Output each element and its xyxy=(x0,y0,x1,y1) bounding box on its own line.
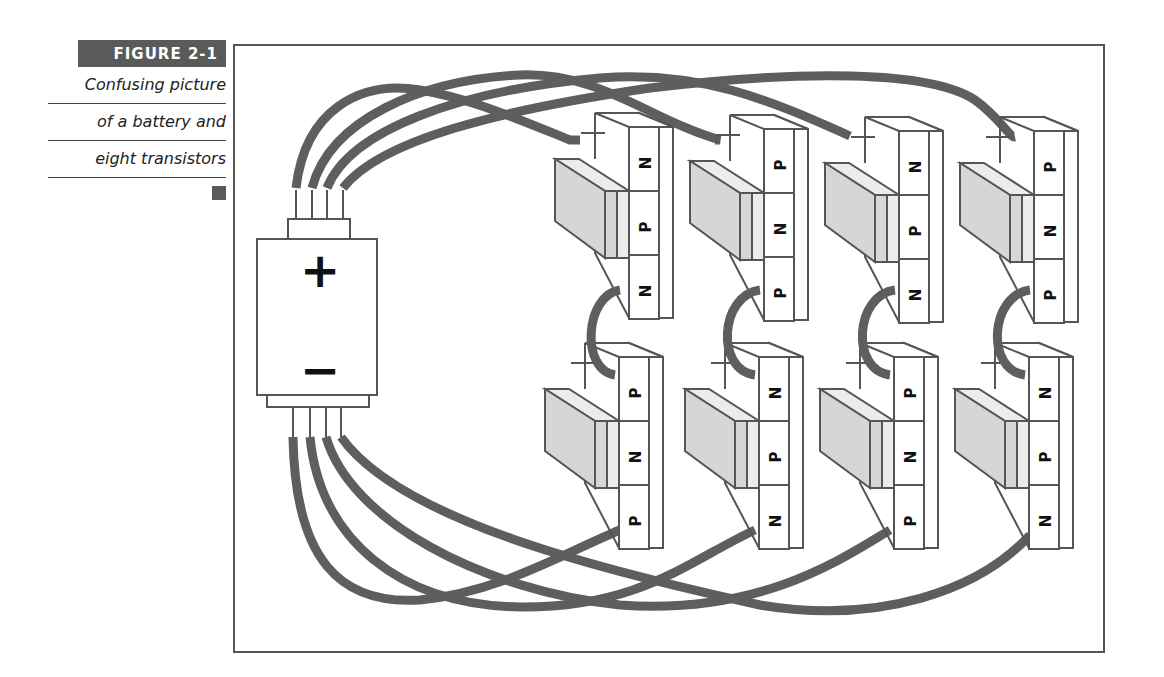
label-bottom-4-b: P xyxy=(1037,452,1055,463)
label-top-1-a: N xyxy=(637,157,655,170)
label-top-2-c: P xyxy=(772,288,790,299)
label-top-1-c: N xyxy=(637,285,655,298)
label-bottom-1-c: P xyxy=(627,516,645,527)
label-top-3-a: N xyxy=(907,161,925,174)
positive-terminal-symbol: + xyxy=(300,242,340,298)
label-bottom-1-b: N xyxy=(627,451,645,464)
label-top-4-b: N xyxy=(1042,225,1060,238)
label-bottom-2-b: P xyxy=(767,452,785,463)
label-bottom-3-c: P xyxy=(902,516,920,527)
label-bottom-2-c: N xyxy=(767,515,785,528)
label-top-4-c: P xyxy=(1042,290,1060,301)
label-bottom-1-a: P xyxy=(627,388,645,399)
label-top-3-c: N xyxy=(907,289,925,302)
battery-transistor-diagram: + − xyxy=(0,0,1164,677)
battery xyxy=(257,190,377,437)
negative-terminal-symbol: − xyxy=(300,342,340,398)
label-top-2-b: N xyxy=(772,223,790,236)
label-bottom-2-a: N xyxy=(767,387,785,400)
label-bottom-3-b: N xyxy=(902,451,920,464)
label-bottom-4-c: N xyxy=(1037,515,1055,528)
label-bottom-4-a: N xyxy=(1037,387,1055,400)
label-top-3-b: P xyxy=(907,226,925,237)
label-top-2-a: P xyxy=(772,160,790,171)
label-bottom-3-a: P xyxy=(902,388,920,399)
label-top-1-b: P xyxy=(637,222,655,233)
label-top-4-a: P xyxy=(1042,162,1060,173)
